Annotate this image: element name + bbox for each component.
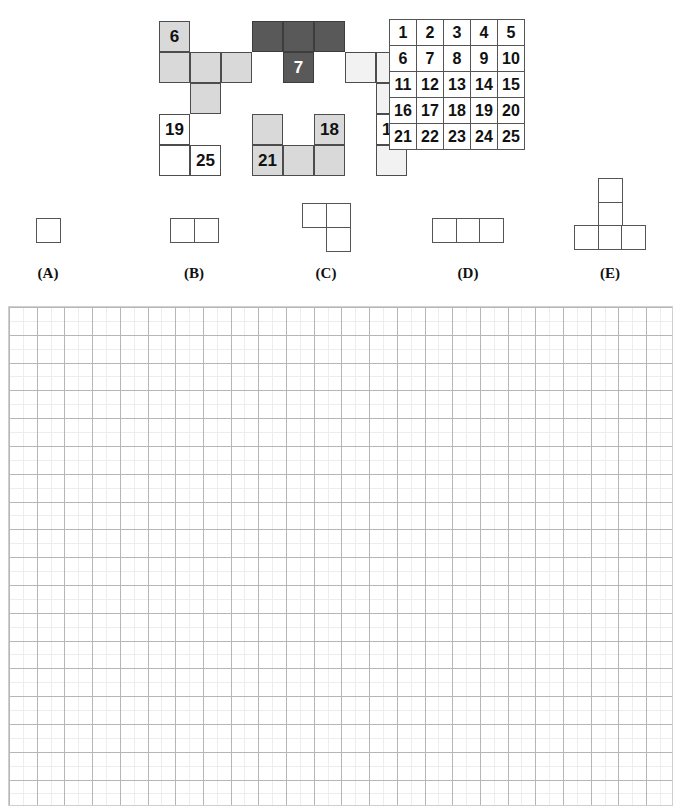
figure-cell bbox=[159, 52, 190, 83]
option-C-cell bbox=[302, 203, 327, 228]
option-D-cell bbox=[456, 218, 481, 243]
option-E-cell bbox=[598, 178, 623, 203]
option-E-label: (E) bbox=[580, 265, 640, 282]
option-D-cell bbox=[432, 218, 457, 243]
number-cell-15: 15 bbox=[498, 72, 525, 98]
number-cell-16: 16 bbox=[390, 98, 417, 124]
table-row: 1112131415 bbox=[390, 72, 525, 98]
figure-cell bbox=[190, 52, 221, 83]
number-cell-21: 21 bbox=[390, 124, 417, 150]
number-cell-12: 12 bbox=[417, 72, 444, 98]
number-table-element: 1234567891011121314151617181920212223242… bbox=[389, 19, 525, 150]
option-B-cell bbox=[170, 218, 195, 243]
polyomino-figure: 671918152521 bbox=[0, 0, 400, 175]
number-cell-1: 1 bbox=[390, 20, 417, 46]
worksheet-page: 671918152521 123456789101112131415161718… bbox=[0, 0, 683, 811]
number-table-body: 1234567891011121314151617181920212223242… bbox=[390, 20, 525, 150]
number-cell-24: 24 bbox=[471, 124, 498, 150]
option-C-cell bbox=[326, 227, 351, 252]
option-E-cell bbox=[574, 225, 599, 250]
option-C-label: (C) bbox=[296, 265, 356, 282]
number-cell-6: 6 bbox=[390, 46, 417, 72]
number-cell-7: 7 bbox=[417, 46, 444, 72]
figure-cell bbox=[283, 21, 314, 52]
option-E-cell bbox=[621, 225, 646, 250]
figure-cell bbox=[345, 52, 376, 83]
option-B-cell bbox=[194, 218, 219, 243]
answer-grid[interactable] bbox=[8, 306, 673, 806]
number-cell-23: 23 bbox=[444, 124, 471, 150]
table-row: 2122232425 bbox=[390, 124, 525, 150]
figure-cell bbox=[252, 114, 283, 145]
number-cell-25: 25 bbox=[498, 124, 525, 150]
numbered-table: 1234567891011121314151617181920212223242… bbox=[389, 19, 525, 150]
option-A-label: (A) bbox=[18, 265, 78, 282]
number-cell-13: 13 bbox=[444, 72, 471, 98]
number-cell-18: 18 bbox=[444, 98, 471, 124]
option-D-label: (D) bbox=[438, 265, 498, 282]
figure-cell-19: 19 bbox=[159, 114, 190, 145]
figure-cell-6: 6 bbox=[159, 21, 190, 52]
table-row: 678910 bbox=[390, 46, 525, 72]
figure-cell-18: 18 bbox=[314, 114, 345, 145]
option-C-cell bbox=[326, 203, 351, 228]
option-B-label: (B) bbox=[164, 265, 224, 282]
number-cell-19: 19 bbox=[471, 98, 498, 124]
option-E-cell bbox=[598, 202, 623, 227]
table-row: 1617181920 bbox=[390, 98, 525, 124]
figure-cell bbox=[314, 21, 345, 52]
figure-cell bbox=[190, 83, 221, 114]
number-cell-8: 8 bbox=[444, 46, 471, 72]
option-D-cell bbox=[479, 218, 504, 243]
option-A-cell bbox=[36, 218, 61, 243]
number-cell-10: 10 bbox=[498, 46, 525, 72]
figure-cell-7: 7 bbox=[283, 52, 314, 83]
table-row: 12345 bbox=[390, 20, 525, 46]
number-cell-2: 2 bbox=[417, 20, 444, 46]
number-cell-22: 22 bbox=[417, 124, 444, 150]
number-cell-4: 4 bbox=[471, 20, 498, 46]
number-cell-14: 14 bbox=[471, 72, 498, 98]
number-cell-17: 17 bbox=[417, 98, 444, 124]
option-E-cell bbox=[598, 225, 623, 250]
figure-cell bbox=[252, 21, 283, 52]
number-cell-20: 20 bbox=[498, 98, 525, 124]
figure-cell bbox=[221, 52, 252, 83]
number-cell-9: 9 bbox=[471, 46, 498, 72]
number-cell-5: 5 bbox=[498, 20, 525, 46]
answer-options: (A)(B)(C)(D)(E) bbox=[0, 170, 683, 290]
number-cell-3: 3 bbox=[444, 20, 471, 46]
number-cell-11: 11 bbox=[390, 72, 417, 98]
